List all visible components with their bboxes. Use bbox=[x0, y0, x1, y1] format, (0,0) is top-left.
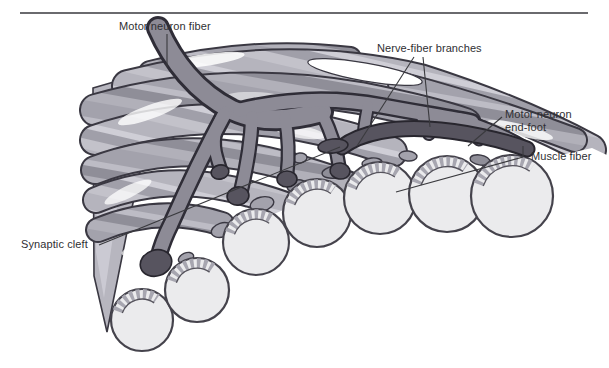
label-motor-neuron-end-foot: Motor neuron end-foot bbox=[505, 108, 583, 133]
cross-section bbox=[471, 155, 553, 237]
cross-section bbox=[111, 289, 173, 351]
figure-canvas: Motor neuron fiber Nerve-fiber branches … bbox=[0, 0, 609, 368]
cross-section bbox=[283, 179, 351, 247]
cross-section bbox=[165, 258, 229, 322]
label-synaptic-cleft: Synaptic cleft bbox=[21, 238, 88, 251]
label-motor-neuron-fiber: Motor neuron fiber bbox=[119, 20, 211, 33]
label-muscle-fiber: Muscle fiber bbox=[531, 150, 592, 163]
cross-section bbox=[223, 209, 289, 275]
cross-section bbox=[344, 162, 416, 234]
label-nerve-fiber-branches: Nerve-fiber branches bbox=[377, 42, 482, 55]
neuromuscular-junction-illustration bbox=[0, 0, 609, 368]
